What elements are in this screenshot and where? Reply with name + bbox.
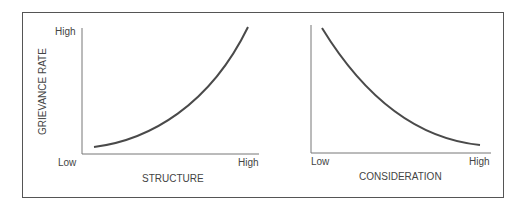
charts-canvas (0, 0, 526, 206)
left-x-low-label: Low (58, 157, 76, 168)
right-x-low-label: Low (311, 156, 329, 167)
left-x-axis-label: STRUCTURE (142, 173, 204, 184)
left-chart-curve (94, 27, 248, 147)
right-chart-curve (322, 28, 480, 145)
left-y-axis-label: GRIEVANCE RATE (37, 48, 48, 135)
right-chart-axes (311, 25, 491, 153)
left-chart-axes (82, 28, 259, 154)
right-x-high-label: High (469, 156, 490, 167)
left-y-high-label: High (55, 26, 76, 37)
right-x-axis-label: CONSIDERATION (359, 171, 442, 182)
left-x-high-label: High (238, 157, 259, 168)
